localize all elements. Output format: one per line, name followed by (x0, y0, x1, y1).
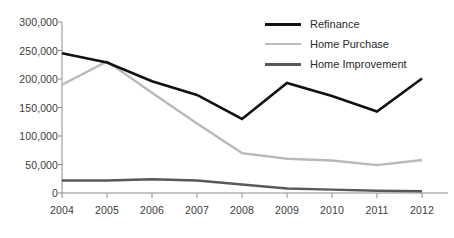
legend-item: Home Purchase (265, 34, 450, 54)
legend-swatch-line-icon (265, 43, 301, 45)
x-axis-tick-label: 2008 (219, 205, 265, 216)
x-axis-tick-label: 2005 (84, 205, 130, 216)
x-axis-tick-label: 2012 (399, 205, 445, 216)
legend-item: Home Improvement (265, 54, 450, 74)
legend-swatch-line-icon (265, 23, 301, 26)
legend-swatch-line-icon (265, 63, 301, 66)
x-axis-tick-label: 2006 (129, 205, 175, 216)
legend-item-label: Refinance (310, 18, 360, 30)
legend-item-label: Home Improvement (310, 58, 407, 70)
x-axis-tick-label: 2009 (264, 205, 310, 216)
x-axis-tick-label: 2004 (39, 205, 85, 216)
x-axis-tick-label: 2010 (309, 205, 355, 216)
x-axis-tick-label: 2011 (354, 205, 400, 216)
legend-item: Refinance (265, 14, 450, 34)
legend-item-label: Home Purchase (310, 38, 389, 50)
x-axis-tick-label: 2007 (174, 205, 220, 216)
chart-legend: RefinanceHome PurchaseHome Improvement (265, 14, 450, 74)
line-chart: 300,000250,000200,000150,000100,00050,00… (0, 0, 454, 238)
